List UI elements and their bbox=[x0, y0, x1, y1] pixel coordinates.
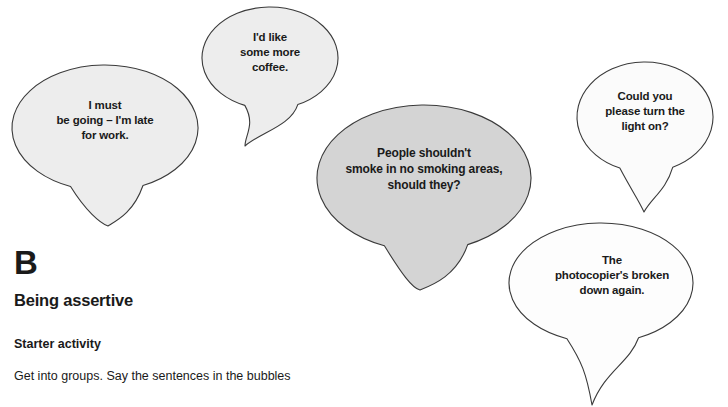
section-heading-block: B Being assertive Starter activity Get i… bbox=[14, 246, 344, 385]
bubble-could-you-please-turn-the-light-on bbox=[577, 62, 713, 212]
subsection-title: Starter activity bbox=[14, 337, 344, 352]
bubble-id-like-some-more-coffee bbox=[202, 7, 338, 146]
instruction-text: Get into groups. Say the sentences in th… bbox=[14, 368, 344, 385]
bubble-label-id-like-some-more-coffee: I'd like some more coffee. bbox=[205, 30, 335, 76]
page-root: I must be going – I'm late for work. I'd… bbox=[0, 0, 728, 407]
bubble-label-could-you-please-turn-the-light-on: Could you please turn the light on? bbox=[578, 89, 712, 135]
bubble-photocopier-broken-down bbox=[509, 223, 693, 405]
section-letter: B bbox=[14, 246, 344, 279]
page-title: Being assertive bbox=[14, 291, 344, 311]
bubble-label-people-shouldnt-smoke: People shouldn't smoke in no smoking are… bbox=[317, 146, 531, 193]
bubble-people-shouldnt-smoke bbox=[317, 105, 531, 290]
bubble-label-photocopier-broken-down: The photocopier's broken down again. bbox=[512, 253, 712, 299]
bubble-i-must-be-going bbox=[12, 65, 198, 226]
bubble-label-i-must-be-going: I must be going – I'm late for work. bbox=[14, 98, 196, 144]
